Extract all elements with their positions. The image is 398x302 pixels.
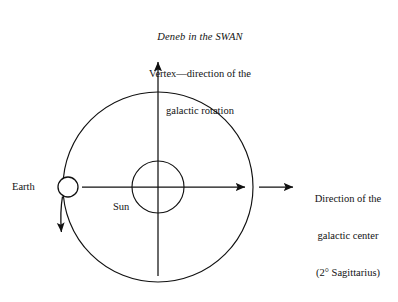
apex-line-2: Vertex—direction of the: [60, 68, 340, 80]
galactic-center-line-3: (2° Sagittarius): [300, 267, 396, 279]
earth-circle: [58, 177, 78, 197]
orbital-motion-arrow: [61, 197, 63, 233]
galactic-center-line-2: galactic center: [300, 230, 396, 242]
apex-direction-label: Deneb in the SWAN Vertex—direction of th…: [60, 6, 340, 142]
apex-star-name: Deneb in the SWAN: [60, 31, 340, 43]
earth-label: Earth: [12, 181, 35, 193]
sun-label: Sun: [113, 201, 129, 213]
diagram-canvas: Deneb in the SWAN Vertex—direction of th…: [0, 0, 398, 302]
galactic-center-label: Direction of the galactic center (2° Sag…: [300, 168, 396, 302]
apex-line-3: galactic rotation: [60, 105, 340, 117]
galactic-center-line-1: Direction of the: [300, 193, 396, 205]
